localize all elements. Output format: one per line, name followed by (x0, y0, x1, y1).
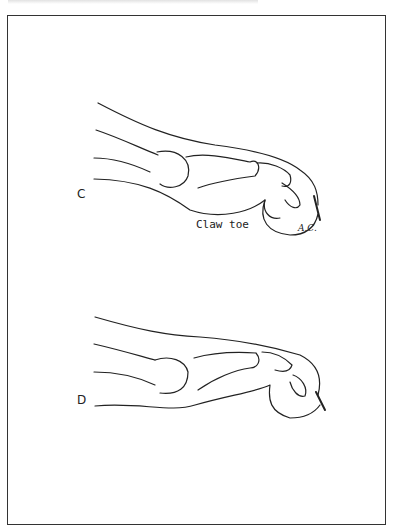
panel-c-label: C (77, 187, 85, 201)
toe-illustrations (0, 0, 394, 532)
toe-drawing-d (94, 317, 325, 418)
claw-toe-drawing (94, 103, 320, 235)
panel-d-label: D (77, 393, 86, 407)
artist-signature: A.C. (298, 223, 317, 233)
claw-toe-caption: Claw toe (196, 218, 249, 231)
